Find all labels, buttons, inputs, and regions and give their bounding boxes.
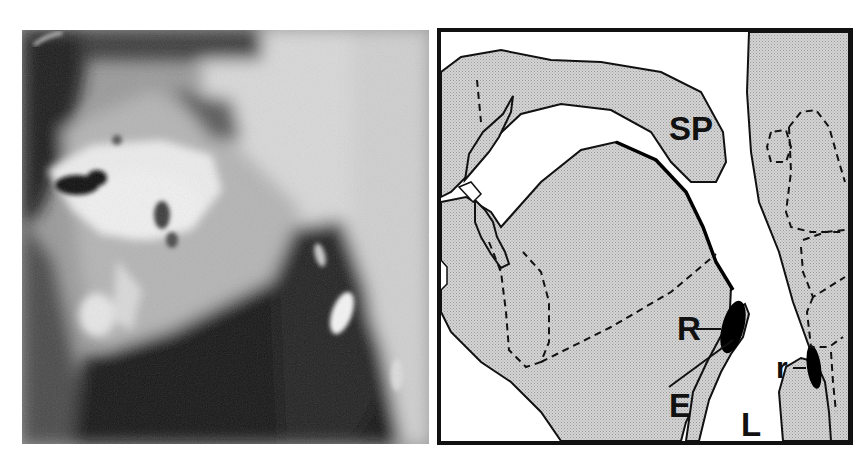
label-soft-palate: SP [669,110,713,147]
xray-graphic [22,30,429,444]
anatomy-diagram: SP R E r L [437,28,853,445]
xray-image [22,30,429,444]
label-larynx: L [741,406,761,441]
label-vallecular-residue: R [677,310,701,347]
label-epiglottis: E [669,387,691,424]
diagram-graphic: SP R E r L [441,32,849,441]
label-pyriform-residue: r [776,351,788,384]
